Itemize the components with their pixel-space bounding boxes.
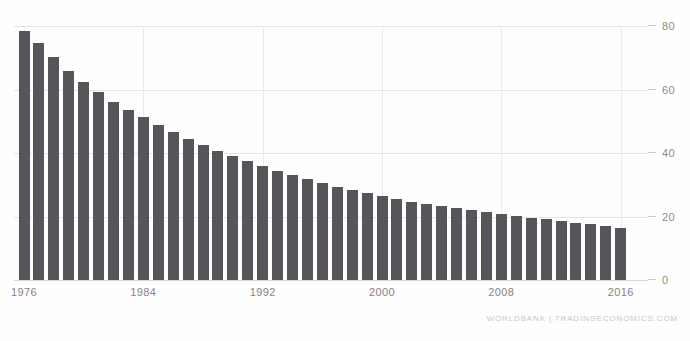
plot-area bbox=[14, 26, 648, 280]
bar bbox=[481, 212, 492, 280]
bar bbox=[287, 175, 298, 280]
x-axis-tick-label-2000: 2000 bbox=[369, 286, 395, 298]
bar bbox=[436, 206, 447, 280]
bar bbox=[466, 210, 477, 280]
bar bbox=[78, 82, 89, 280]
x-axis-tick-label-2008: 2008 bbox=[488, 286, 514, 298]
bar bbox=[391, 199, 402, 280]
bar bbox=[153, 125, 164, 280]
bar bbox=[123, 110, 134, 280]
x-axis-tick-label-1976: 1976 bbox=[11, 286, 37, 298]
x-axis-tick-label-1984: 1984 bbox=[130, 286, 156, 298]
bar bbox=[406, 202, 417, 280]
bar bbox=[108, 102, 119, 280]
bar bbox=[212, 151, 223, 280]
bar bbox=[48, 57, 59, 280]
source-credit: WORLDBANK | TRADINGECONOMICS.COM bbox=[487, 314, 678, 323]
y-axis-tick-label: 80 bbox=[662, 19, 675, 33]
bar bbox=[496, 214, 507, 280]
y-axis-tick-80: 80 bbox=[648, 19, 690, 33]
bar bbox=[570, 223, 581, 280]
bar bbox=[198, 145, 209, 280]
bar bbox=[362, 193, 373, 280]
bar bbox=[421, 204, 432, 280]
bar bbox=[183, 139, 194, 280]
y-tick-mark bbox=[648, 89, 656, 90]
y-axis-tick-40: 40 bbox=[648, 146, 690, 160]
y-axis-tick-label: 60 bbox=[662, 83, 675, 97]
bar bbox=[526, 218, 537, 280]
bar bbox=[585, 224, 596, 280]
bar-series bbox=[14, 26, 648, 280]
x-axis-tick-label-2016: 2016 bbox=[608, 286, 634, 298]
y-axis-tick-0: 0 bbox=[648, 273, 690, 287]
bar bbox=[615, 228, 626, 280]
y-tick-mark bbox=[648, 216, 656, 217]
bar bbox=[93, 92, 104, 280]
bar bbox=[600, 226, 611, 280]
y-axis-tick-label: 20 bbox=[662, 210, 675, 224]
bar bbox=[168, 132, 179, 280]
bar bbox=[317, 183, 328, 280]
bar bbox=[302, 179, 313, 280]
y-axis-tick-label: 0 bbox=[662, 273, 668, 287]
bar bbox=[272, 171, 283, 280]
bar bbox=[347, 190, 358, 280]
y-tick-mark bbox=[648, 152, 656, 153]
bar bbox=[257, 166, 268, 280]
y-axis-tick-label: 40 bbox=[662, 146, 675, 160]
bar bbox=[227, 156, 238, 280]
bar bbox=[33, 43, 44, 280]
x-axis: 197619841992200020082016 bbox=[0, 286, 690, 302]
y-axis-tick-60: 60 bbox=[648, 83, 690, 97]
bar bbox=[138, 117, 149, 280]
gridline-0 bbox=[14, 280, 648, 281]
bar bbox=[451, 208, 462, 280]
bar bbox=[377, 196, 388, 280]
y-axis-tick-20: 20 bbox=[648, 210, 690, 224]
bar bbox=[511, 216, 522, 280]
bar bbox=[332, 187, 343, 280]
bar bbox=[242, 161, 253, 280]
y-tick-mark bbox=[648, 279, 656, 280]
y-tick-mark bbox=[648, 25, 656, 26]
x-axis-tick-label-1992: 1992 bbox=[250, 286, 276, 298]
bar bbox=[19, 31, 30, 280]
bar bbox=[541, 219, 552, 280]
bar bbox=[556, 221, 567, 280]
bar bbox=[63, 71, 74, 280]
chart-screenshot: 020406080 197619841992200020082016 WORLD… bbox=[0, 0, 690, 341]
